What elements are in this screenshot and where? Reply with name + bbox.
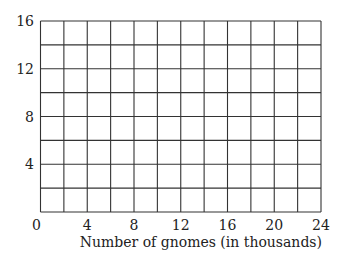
x-tick-label: 20 <box>265 217 283 233</box>
y-tick-label: 4 <box>25 156 34 172</box>
y-tick-label: 12 <box>16 61 34 77</box>
plot-grid <box>41 21 322 212</box>
x-tick-label: 24 <box>312 217 330 233</box>
x-tick-label: 4 <box>83 217 92 233</box>
x-tick-label: 8 <box>130 217 139 233</box>
chart: 481216 04812162024 Number of gnomes (in … <box>0 0 342 264</box>
x-tick-label: 16 <box>219 217 237 233</box>
x-tick-label: 12 <box>172 217 190 233</box>
y-axis-ticks: 481216 <box>16 13 34 172</box>
x-axis-label: Number of gnomes (in thousands) <box>80 234 322 250</box>
x-axis-ticks: 04812162024 <box>32 217 330 233</box>
y-tick-label: 16 <box>16 13 34 29</box>
x-tick-label: 0 <box>32 217 41 233</box>
y-tick-label: 8 <box>25 109 34 125</box>
